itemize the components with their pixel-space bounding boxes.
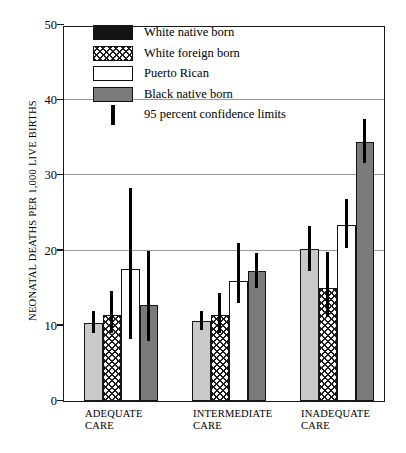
y-tick-30	[57, 174, 64, 175]
y-tick-label-30: 30	[31, 168, 57, 183]
y-tick-10	[57, 324, 64, 325]
chart-legend: White native bornWhite foreign bornPuert…	[93, 23, 286, 126]
gridline-30	[64, 174, 384, 175]
y-tick-20	[57, 249, 64, 250]
error-bar	[92, 311, 95, 334]
error-bar	[308, 226, 311, 271]
gridline-20	[64, 250, 384, 251]
x-group-label-2: INADEQUATECARE	[301, 408, 370, 431]
legend-item-3: Black native born	[93, 85, 286, 104]
legend-label: Puerto Rican	[144, 66, 209, 81]
y-tick-label-10: 10	[31, 319, 57, 334]
legend-item-0: White native born	[93, 23, 286, 42]
legend-swatch-0	[93, 25, 133, 40]
bar	[84, 323, 103, 401]
x-group-label-line1: INADEQUATE	[301, 408, 370, 420]
y-tick-label-0: 0	[31, 394, 57, 409]
bar	[356, 142, 375, 401]
error-bar	[218, 293, 221, 334]
error-bar	[345, 199, 348, 248]
error-bar	[363, 119, 366, 163]
error-bar	[200, 311, 203, 331]
legend-item-4: 95 percent confidence limits	[93, 105, 286, 124]
legend-label: White foreign born	[144, 46, 240, 61]
legend-item-2: Puerto Rican	[93, 64, 286, 83]
error-bar	[110, 291, 113, 333]
y-tick-label-40: 40	[31, 93, 57, 108]
x-group-label-line1: INTERMEDIATE	[193, 408, 272, 420]
y-tick-label-50: 50	[31, 18, 57, 33]
chart-figure: NEONATAL DEATHS PER 1,000 LIVE BIRTHS 01…	[0, 0, 406, 453]
error-bar	[326, 252, 329, 317]
legend-label: White native born	[144, 25, 234, 40]
error-bar	[129, 188, 132, 339]
bar	[337, 225, 356, 401]
legend-swatch-3	[93, 87, 133, 102]
x-group-label-line1: ADEQUATE	[85, 408, 143, 420]
error-bar	[255, 253, 258, 288]
x-group-label-1: INTERMEDIATECARE	[193, 408, 272, 431]
bar	[248, 271, 267, 401]
y-tick-0	[57, 400, 64, 401]
x-group-label-line2: CARE	[85, 420, 143, 432]
y-tick-label-20: 20	[31, 244, 57, 259]
bar	[192, 321, 211, 401]
x-group-label-line2: CARE	[301, 420, 370, 432]
legend-label: Black native born	[144, 87, 233, 102]
legend-item-1: White foreign born	[93, 44, 286, 63]
y-tick-50	[57, 24, 64, 25]
legend-label: 95 percent confidence limits	[144, 107, 286, 122]
plot-area: White native bornWhite foreign bornPuert…	[63, 26, 385, 402]
x-group-label-0: ADEQUATECARE	[85, 408, 143, 431]
legend-swatch-1	[93, 46, 133, 61]
y-tick-40	[57, 99, 64, 100]
legend-swatch-4	[93, 107, 133, 122]
error-bar	[147, 251, 150, 341]
legend-swatch-2	[93, 66, 133, 81]
error-bar	[237, 243, 240, 303]
bar	[300, 249, 319, 401]
x-group-label-line2: CARE	[193, 420, 272, 432]
